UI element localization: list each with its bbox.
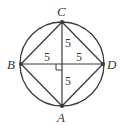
- label-b: B: [7, 57, 15, 72]
- label-a: A: [56, 110, 65, 125]
- point-b: [19, 62, 23, 66]
- point-c: [60, 20, 64, 24]
- segment-label-left: 5: [44, 50, 50, 64]
- geometry-diagram: C B D A 5 5 5 5: [0, 0, 123, 125]
- segment-label-lower: 5: [65, 74, 71, 88]
- label-c: C: [57, 4, 66, 19]
- point-d: [101, 62, 105, 66]
- segment-label-upper: 5: [65, 36, 71, 50]
- label-d: D: [106, 57, 117, 72]
- right-angle-marker: [56, 64, 62, 70]
- point-a: [60, 104, 64, 108]
- diagram-canvas: C B D A 5 5 5 5: [0, 0, 123, 125]
- segment-label-right: 5: [76, 50, 82, 64]
